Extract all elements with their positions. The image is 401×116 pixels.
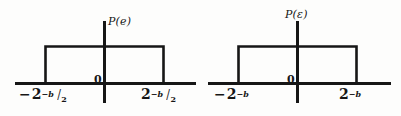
tick-sign: −: [19, 87, 31, 101]
tick-base: 2: [227, 87, 237, 101]
x-tick-label-right-positive: 2−b: [338, 87, 361, 101]
tick-denominator: 2: [61, 95, 67, 103]
y-axis-label-right: P(ε): [285, 9, 308, 20]
tick-base: 2: [141, 87, 151, 101]
x-tick-label-left-negative: −2−b/2: [19, 87, 67, 101]
tick-fraction: /2: [166, 88, 176, 101]
x-tick-label-right-negative: −2−b: [214, 87, 249, 101]
x-tick-label-left-positive: 2−b/2: [140, 87, 176, 101]
origin-label-right: 0: [287, 74, 295, 85]
figure-uniform-error-densities: P(e) 0 −2−b/2 2−b/2 P(ε) 0 −2−b: [0, 0, 401, 116]
tick-fraction: /2: [57, 88, 67, 101]
tick-denominator: 2: [170, 95, 176, 103]
chart-panel-right: P(ε) 0 −2−b 2−b: [200, 0, 401, 116]
tick-base: 2: [32, 87, 42, 101]
origin-label-left: 0: [94, 74, 102, 85]
tick-sign: −: [214, 87, 226, 101]
chart-panel-left: P(e) 0 −2−b/2 2−b/2: [0, 0, 200, 116]
y-axis-label-left: P(e): [108, 16, 131, 27]
tick-base: 2: [339, 87, 349, 101]
